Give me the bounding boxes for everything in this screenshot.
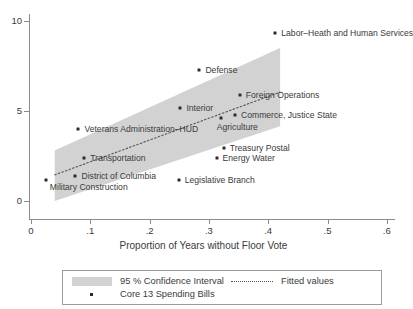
legend-fitted-label: Fitted values xyxy=(281,277,334,286)
data-point-marker[interactable] xyxy=(215,156,218,159)
data-point-marker[interactable] xyxy=(233,113,236,116)
data-point-label: Transportation xyxy=(90,154,145,163)
data-point-marker[interactable] xyxy=(44,179,47,182)
data-point-label: Foreign Operations xyxy=(246,91,320,100)
data-point-marker[interactable] xyxy=(238,93,241,96)
data-point-label: Treasury Postal xyxy=(230,144,290,153)
data-point-label: Interior xyxy=(186,104,213,113)
data-point-marker[interactable] xyxy=(74,174,77,177)
data-point-label: Labor–Heath and Human Services xyxy=(281,29,413,38)
chart-legend: 95 % Confidence Interval Fitted values C… xyxy=(62,270,382,305)
data-points-layer: Military ConstructionDistrict of Columbi… xyxy=(0,0,407,230)
data-point-marker[interactable] xyxy=(179,107,182,110)
data-point-marker[interactable] xyxy=(83,156,86,159)
legend-point-marker xyxy=(90,293,93,296)
legend-ci-label: 95 % Confidence Interval xyxy=(120,277,224,286)
data-point-label: Legislative Branch xyxy=(185,176,255,185)
data-point-marker[interactable] xyxy=(198,68,201,71)
data-point-marker[interactable] xyxy=(177,179,180,182)
data-point-label: Defense xyxy=(205,66,237,75)
data-point-label: Agriculture xyxy=(217,123,258,132)
plot-area: 0510 0.1.2.3.4.5.6 Military Construction… xyxy=(0,0,407,230)
data-point-label: District of Columbia xyxy=(81,172,156,181)
legend-points-label: Core 13 Spending Bills xyxy=(120,290,215,299)
data-point-label: Military Construction xyxy=(50,183,128,192)
data-point-marker[interactable] xyxy=(77,128,80,131)
legend-fitted-line-sample xyxy=(231,281,273,282)
data-point-label: Commerce, Justice State xyxy=(241,111,337,120)
data-point-marker[interactable] xyxy=(274,31,277,34)
legend-ci-swatch xyxy=(72,277,112,286)
data-point-marker[interactable] xyxy=(219,117,222,120)
data-point-label: Energy Water xyxy=(223,154,275,163)
x-axis-title: Proportion of Years without Floor Vote xyxy=(0,240,407,251)
data-point-marker[interactable] xyxy=(222,146,225,149)
data-point-label: Veterans Administration–HUD xyxy=(84,125,198,134)
